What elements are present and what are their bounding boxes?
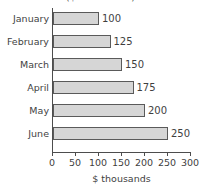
bar-value-label: 250 — [171, 127, 190, 140]
category-label: February — [0, 35, 49, 48]
x-tick-mark — [75, 152, 76, 156]
bar-row: January100 — [0, 12, 201, 25]
x-tick-label: 250 — [158, 157, 176, 168]
x-tick-mark — [190, 152, 191, 156]
bar-row: March150 — [0, 58, 201, 71]
bar-value-label: 175 — [137, 81, 156, 94]
bar — [53, 58, 122, 71]
x-tick-label: 150 — [112, 157, 130, 168]
x-tick-mark — [144, 152, 145, 156]
x-tick-mark — [52, 152, 53, 156]
x-tick-label: 100 — [89, 157, 107, 168]
bar-row: April175 — [0, 81, 201, 94]
bar-row: May200 — [0, 104, 201, 117]
x-tick-mark — [121, 152, 122, 156]
x-tick-mark — [98, 152, 99, 156]
category-label: March — [0, 58, 49, 71]
category-label: May — [0, 104, 49, 117]
x-tick-label: 300 — [181, 157, 199, 168]
bar — [53, 12, 99, 25]
category-label: June — [0, 127, 49, 140]
bar — [53, 104, 145, 117]
bar — [53, 127, 168, 140]
bar-value-label: 100 — [102, 12, 121, 25]
bar-chart: ($ thousands) January100February125March… — [0, 0, 201, 193]
bar-row: June250 — [0, 127, 201, 140]
bar — [53, 35, 111, 48]
category-label: April — [0, 81, 49, 94]
x-tick-label: 0 — [49, 157, 55, 168]
x-tick-mark — [167, 152, 168, 156]
plot-area: January100February125March150April175May… — [0, 0, 201, 193]
bar-value-label: 150 — [125, 58, 144, 71]
bar-value-label: 125 — [114, 35, 133, 48]
bar-value-label: 200 — [148, 104, 167, 117]
bar — [53, 81, 134, 94]
category-label: January — [0, 12, 49, 25]
bar-row: February125 — [0, 35, 201, 48]
x-tick-label: 200 — [135, 157, 153, 168]
x-axis-title: $ thousands — [52, 173, 191, 184]
x-tick-label: 50 — [69, 157, 81, 168]
